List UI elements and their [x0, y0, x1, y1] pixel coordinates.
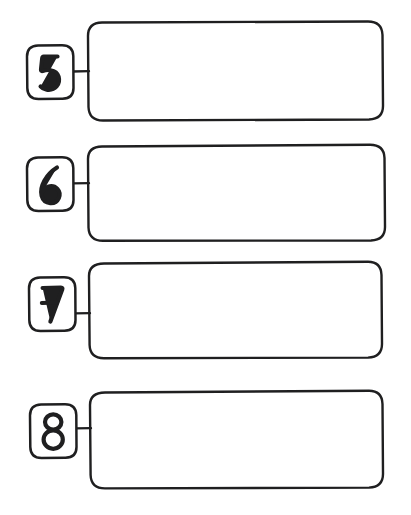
worksheet-drawing [0, 0, 411, 515]
answer-box-6[interactable] [88, 145, 385, 241]
worksheet-row-6 [27, 145, 385, 241]
worksheet-row-5 [27, 22, 383, 121]
worksheet-row-7 [29, 262, 382, 358]
answer-box-7[interactable] [89, 262, 382, 358]
answer-box-5[interactable] [88, 22, 383, 121]
answer-box-8[interactable] [90, 391, 383, 489]
worksheet-canvas: 5 6 7 8 [0, 0, 411, 515]
worksheet-row-8 [30, 391, 383, 489]
